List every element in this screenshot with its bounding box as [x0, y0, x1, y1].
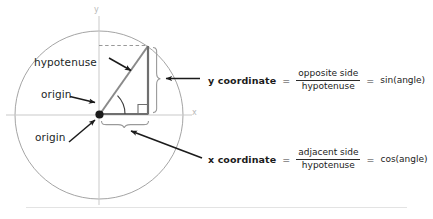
- y-equals-sign: =: [282, 75, 290, 86]
- x-result: cos(angle): [380, 154, 427, 164]
- y-coordinate-label: y coordinate: [208, 75, 276, 86]
- origin-lower-label: origin: [35, 131, 66, 143]
- origin-upper-label: origin: [41, 88, 72, 100]
- y-equals-sign-2: =: [366, 75, 374, 86]
- y-axis-label: y: [94, 5, 99, 14]
- y-result: sin(angle): [380, 75, 425, 85]
- bottom-divider: [26, 207, 407, 208]
- x-fraction: adjacent side hypotenuse: [296, 148, 360, 170]
- x-axis-label: x: [192, 108, 197, 117]
- origin-upper-arrow: [70, 97, 95, 103]
- right-angle-marker: [138, 105, 148, 115]
- y-fraction: opposite side hypotenuse: [296, 69, 360, 91]
- x-numerator: adjacent side: [296, 148, 360, 159]
- hypotenuse-label: hypotenuse: [34, 56, 97, 68]
- x-coordinate-equation: x coordinate = adjacent side hypotenuse …: [208, 148, 428, 170]
- y-numerator: opposite side: [296, 69, 360, 80]
- vertical-brace: [153, 48, 160, 113]
- origin-lower-arrow: [69, 120, 95, 142]
- hypotenuse-arrow: [109, 58, 131, 71]
- x-coordinate-label: x coordinate: [208, 154, 276, 165]
- angle-arc: [118, 96, 126, 114]
- x-denominator: hypotenuse: [300, 160, 357, 171]
- y-coordinate-equation: y coordinate = opposite side hypotenuse …: [208, 69, 425, 91]
- x-coordinate-arrow: [131, 131, 202, 158]
- hypotenuse-line: [100, 46, 148, 114]
- y-denominator: hypotenuse: [300, 81, 357, 92]
- x-equals-sign-2: =: [366, 154, 374, 165]
- horizontal-brace: [102, 121, 149, 128]
- trigonometry-unit-circle-diagram: hypotenuse origin origin y x y coordinat…: [0, 0, 433, 219]
- x-equals-sign: =: [282, 154, 290, 165]
- origin-point: [95, 110, 103, 118]
- diagram-canvas: [0, 0, 433, 219]
